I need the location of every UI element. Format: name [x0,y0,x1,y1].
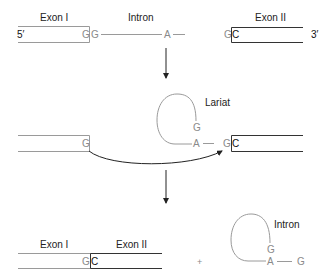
lariat-g: G [193,122,201,133]
branch-point-a: A [193,138,200,149]
intron-end-nucleotide: G [223,138,231,149]
intron-start-nucleotide: G [91,29,99,40]
branch-point-a: A [164,29,171,40]
exon1-end-nucleotide: G [82,138,90,149]
three-prime-label: 3′ [311,29,319,40]
exon1-box [18,136,90,152]
intron-end-nucleotide: G [224,29,232,40]
splicing-diagram: Exon I Intron Exon II 5′ G G A G C 3′ G … [0,0,329,279]
exon1-box [18,27,90,43]
step-3-spliced-products: Exon I Exon II G C + Intron G A G [18,214,305,269]
intron-label: Intron [128,12,154,23]
exon2-label: Exon II [255,12,286,23]
lariat-loop [157,94,196,144]
exon1-box [18,254,91,269]
lariat-label: Lariat [205,97,230,108]
exon2-start-nucleotide: C [232,29,239,40]
exon2-label: Exon II [116,239,147,250]
branch-point-a: A [267,256,274,267]
step-1-pre-mrna: Exon I Intron Exon II 5′ G G A G C 3′ [17,12,319,43]
exon2-box [232,28,304,43]
intron-label: Intron [274,219,300,230]
lariat-g: G [267,244,275,255]
exon2-start-nucleotide: C [232,138,239,149]
exon1-end-nucleotide: G [82,256,90,267]
five-prime-label: 5′ [17,29,25,40]
exon1-label: Exon I [40,12,68,23]
intron-lariat-loop [231,214,270,261]
plus-sign: + [197,257,202,267]
exon2-box [91,254,163,269]
exon1-label: Exon I [40,239,68,250]
exon2-box [232,136,304,152]
exon2-start-nucleotide: C [91,256,98,267]
exon1-end-nucleotide: G [82,29,90,40]
step-2-lariat-formation: G Lariat G A G C [18,94,303,164]
transesterification-arrow [89,151,222,164]
tail-g: G [297,256,305,267]
